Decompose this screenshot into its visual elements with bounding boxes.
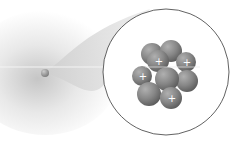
plus-icon: + xyxy=(155,56,163,67)
plus-icon: + xyxy=(183,57,191,68)
neutron-particle xyxy=(176,70,198,92)
atom-diagram: ++++ xyxy=(0,0,239,145)
plus-icon: + xyxy=(168,93,176,104)
neutron-particle xyxy=(137,82,161,106)
atom-dot xyxy=(41,69,49,77)
plus-icon: + xyxy=(139,71,147,82)
diagram-canvas: ++++ xyxy=(0,0,239,145)
